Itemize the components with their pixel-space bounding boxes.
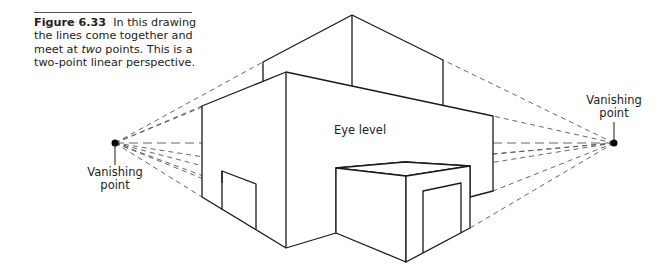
small-box-left-face [336, 168, 406, 262]
buildings [202, 15, 493, 262]
eye-level-label: Eye level [325, 124, 395, 137]
label-line-2: point [581, 107, 647, 120]
right-vanishing-point-label: Vanishing point [581, 94, 647, 120]
perspective-drawing [0, 0, 672, 275]
label-line-2: point [82, 179, 148, 192]
left-vanishing-point-label: Vanishing point [82, 166, 148, 192]
